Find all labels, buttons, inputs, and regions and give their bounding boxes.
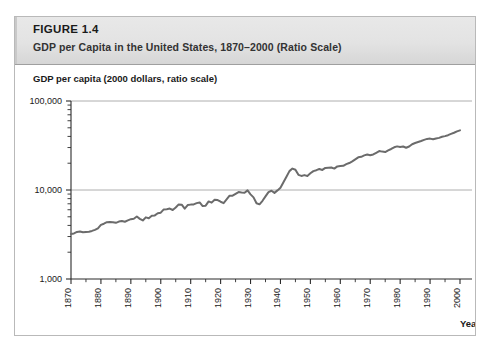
- figure-page: FIGURE 1.4 GDP per Capita in the United …: [0, 0, 495, 351]
- gdp-line-chart: 1,00010,000100,000 187018801890190019101…: [15, 87, 475, 335]
- figure-title: GDP per Capita in the United States, 187…: [33, 41, 342, 53]
- y-axis-ticks: [66, 101, 71, 279]
- x-axis-title: Year: [460, 318, 475, 329]
- gdp-series-line: [71, 130, 460, 234]
- figure-container: FIGURE 1.4 GDP per Capita in the United …: [14, 16, 476, 336]
- x-tick-label: 1940: [272, 288, 282, 308]
- y-axis-title: GDP per capita (2000 dollars, ratio scal…: [33, 73, 217, 84]
- x-axis-tick-labels: 1870188018901900191019201930194019501960…: [63, 288, 462, 308]
- x-tick-label: 1980: [392, 288, 402, 308]
- x-tick-label: 1880: [93, 288, 103, 308]
- y-tick-label: 10,000: [34, 185, 62, 195]
- x-tick-label: 2000: [452, 288, 462, 308]
- figure-number-label: FIGURE 1.4: [33, 23, 99, 35]
- x-tick-label: 1910: [183, 288, 193, 308]
- x-tick-label: 1950: [302, 288, 312, 308]
- x-tick-label: 1890: [123, 288, 133, 308]
- y-tick-label: 100,000: [29, 96, 62, 106]
- x-tick-label: 1990: [422, 288, 432, 308]
- y-tick-label: 1,000: [39, 274, 62, 284]
- x-tick-label: 1960: [332, 288, 342, 308]
- chart-plot-area: 1,00010,000100,000 187018801890190019101…: [15, 87, 475, 335]
- x-tick-label: 1870: [63, 288, 73, 308]
- x-tick-label: 1970: [362, 288, 372, 308]
- y-axis-tick-labels: 1,00010,000100,000: [29, 96, 62, 284]
- x-tick-label: 1920: [213, 288, 223, 308]
- x-axis-ticks: [71, 279, 460, 284]
- figure-header-band: FIGURE 1.4 GDP per Capita in the United …: [15, 17, 475, 65]
- x-tick-label: 1900: [153, 288, 163, 308]
- x-tick-label: 1930: [243, 288, 253, 308]
